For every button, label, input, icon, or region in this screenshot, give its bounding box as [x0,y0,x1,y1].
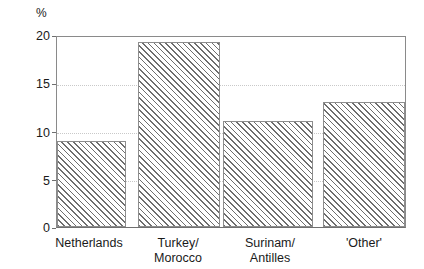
y-tick-label-15: 15 [10,78,50,90]
y-tick-label-10: 10 [10,127,50,139]
bar-turkey-morocco [138,42,220,227]
y-tick-label-5: 5 [10,175,50,187]
x-label-other: 'Other' [320,236,408,251]
bar-chart-figure: % 20 15 10 5 0 Netherlands Turkey/ Moroc… [0,0,424,269]
y-tick-label-0: 0 [10,222,50,234]
gridline-15 [57,85,405,86]
y-axis-unit-label: % [36,6,47,20]
y-tick-label-20: 20 [10,30,50,42]
plot-area [56,36,406,228]
bar-surinam-antilles [223,121,313,227]
x-label-surinam-antilles: Surinam/ Antilles [210,236,330,266]
bar-other [323,102,405,227]
y-tick-mark-0 [52,228,56,229]
bar-netherlands [57,141,126,227]
